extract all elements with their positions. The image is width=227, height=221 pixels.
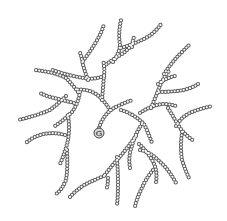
glucose-chain	[70, 176, 104, 197]
glucose-chain	[34, 70, 78, 92]
glucose-chain	[176, 106, 213, 126]
glucose-chains-outline	[18, 20, 213, 207]
glucose-chain	[40, 93, 74, 103]
glycogen-diagram: G	[0, 0, 227, 221]
glucose-chain	[121, 24, 161, 48]
glycogenin-core: G	[94, 128, 104, 138]
glucose-chain	[135, 170, 153, 207]
core-label: G	[96, 129, 102, 138]
